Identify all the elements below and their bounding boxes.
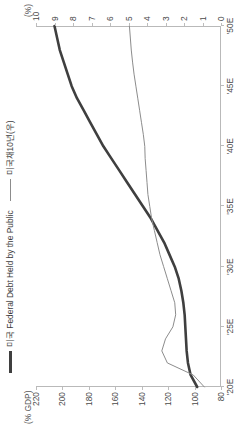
x-axis-tick — [221, 326, 224, 327]
left-axis-tick — [221, 387, 222, 390]
plot-area: 22020018016014012010080109876543210'20E'… — [36, 26, 221, 387]
left-axis-tick — [36, 387, 37, 390]
left-axis-tick-label: 180 — [85, 392, 93, 406]
right-axis-tick — [184, 23, 185, 26]
left-axis-tick — [115, 387, 116, 390]
left-axis-tick-label: 120 — [164, 392, 172, 406]
right-axis-tick-label: 5 — [124, 16, 132, 21]
right-axis-tick — [147, 23, 148, 26]
x-axis-tick — [221, 85, 224, 86]
left-axis-tick-label: 160 — [111, 392, 119, 406]
rotated-chart-wrapper: 미국 Federal Debt Held by the Public 미국채10… — [0, 0, 251, 427]
chart-figure: 미국 Federal Debt Held by the Public 미국채10… — [0, 0, 251, 427]
x-axis-tick-label: '40E — [226, 138, 234, 155]
left-axis-tick — [89, 387, 90, 390]
legend-label-ust10y: 미국채10년(우) — [6, 121, 14, 176]
right-axis-tick — [110, 23, 111, 26]
right-axis-tick — [73, 23, 74, 26]
x-axis-tick — [221, 145, 224, 146]
left-axis-tick — [142, 387, 143, 390]
right-axis-tick-label: 10 — [32, 12, 40, 21]
legend-label-federal-debt: 미국 Federal Debt Held by the Public — [6, 210, 14, 347]
series-line-1 — [129, 26, 204, 387]
right-axis-tick-label: 2 — [180, 16, 188, 21]
x-axis-tick — [221, 25, 224, 26]
right-axis-tick-label: 3 — [161, 16, 169, 21]
x-axis-tick-label: '25E — [226, 319, 234, 336]
right-axis-tick-label: 1 — [198, 16, 206, 21]
right-axis-tick-label: 4 — [143, 16, 151, 21]
x-axis-tick-label: '30E — [226, 258, 234, 275]
chart-legend: 미국 Federal Debt Held by the Public 미국채10… — [6, 121, 14, 373]
right-axis-tick — [92, 23, 93, 26]
legend-swatch-federal-debt — [9, 351, 12, 373]
left-axis-tick-label: 140 — [138, 392, 146, 406]
right-axis-tick-label: 0 — [217, 16, 225, 21]
right-axis-tick-label: 6 — [106, 16, 114, 21]
x-axis-tick — [221, 266, 224, 267]
right-axis-tick-label: 7 — [87, 16, 95, 21]
left-axis-tick — [62, 387, 63, 390]
x-axis-tick-label: '50E — [226, 18, 234, 35]
x-axis-tick — [221, 386, 224, 387]
x-axis-tick-label: '35E — [226, 198, 234, 215]
x-axis-tick — [221, 206, 224, 207]
right-axis-tick — [203, 23, 204, 26]
left-axis-tick — [168, 387, 169, 390]
left-axis-tick — [195, 387, 196, 390]
legend-item-federal-debt: 미국 Federal Debt Held by the Public — [6, 210, 14, 373]
left-axis-tick-label: 200 — [58, 392, 66, 406]
x-axis-tick-label: '20E — [226, 379, 234, 396]
right-axis-tick — [55, 23, 56, 26]
series-line-0 — [55, 26, 198, 387]
x-axis-tick-label: '45E — [226, 78, 234, 95]
right-axis-tick — [129, 23, 130, 26]
left-axis-tick-label: 220 — [32, 392, 40, 406]
right-axis-tick — [166, 23, 167, 26]
left-axis-tick-label: 80 — [217, 392, 225, 401]
right-axis-tick-label: 9 — [50, 16, 58, 21]
right-axis-tick-label: 8 — [69, 16, 77, 21]
right-axis-tick — [36, 23, 37, 26]
legend-swatch-ust10y — [10, 179, 11, 201]
left-axis-tick-label: 100 — [190, 392, 198, 406]
series-lines — [36, 26, 221, 387]
legend-item-ust10y: 미국채10년(우) — [6, 121, 14, 202]
